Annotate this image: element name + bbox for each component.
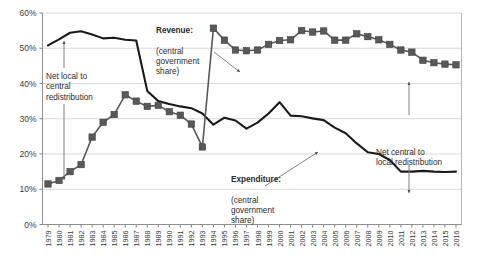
revenue-annotation: Revenue: (central government share) [156, 16, 226, 78]
net-central-to-local-annotation: Net central to local redistribution [376, 148, 472, 169]
svg-text:2014: 2014 [430, 231, 439, 247]
svg-text:1997: 1997 [242, 231, 251, 247]
expenditure-annotation: Expenditure: (central government share) [231, 165, 311, 227]
svg-text:1986: 1986 [121, 231, 130, 247]
svg-text:2003: 2003 [309, 231, 318, 247]
svg-text:1982: 1982 [77, 231, 86, 247]
revenue-annotation-title: Revenue: [156, 26, 226, 36]
svg-text:2001: 2001 [287, 231, 296, 247]
svg-text:10%: 10% [19, 184, 36, 194]
x-axis-labels: 1979198019811982198319841985198619871988… [44, 231, 461, 247]
chart-container: 0%10%20%30%40%50%60% 1979198019811982198… [0, 0, 482, 278]
svg-text:50%: 50% [19, 43, 36, 53]
revenue-annotation-sub: (central government share) [156, 47, 199, 77]
svg-text:1979: 1979 [44, 231, 53, 247]
svg-text:1992: 1992 [187, 231, 196, 247]
svg-text:1985: 1985 [110, 231, 119, 247]
svg-text:2000: 2000 [276, 231, 285, 247]
svg-text:2005: 2005 [331, 231, 340, 247]
svg-text:60%: 60% [19, 8, 36, 18]
svg-text:40%: 40% [19, 79, 36, 89]
svg-text:2004: 2004 [320, 231, 329, 247]
svg-text:1981: 1981 [66, 231, 75, 247]
svg-text:1994: 1994 [209, 231, 218, 247]
svg-text:2007: 2007 [353, 231, 362, 247]
svg-text:1980: 1980 [55, 231, 64, 247]
svg-text:1989: 1989 [154, 231, 163, 247]
svg-text:1996: 1996 [231, 231, 240, 247]
svg-text:1998: 1998 [254, 231, 263, 247]
svg-text:2016: 2016 [452, 231, 461, 247]
svg-text:0%: 0% [24, 220, 37, 230]
svg-text:1983: 1983 [88, 231, 97, 247]
svg-text:1991: 1991 [176, 231, 185, 247]
svg-text:1993: 1993 [198, 231, 207, 247]
expenditure-annotation-sub: (central government share) [231, 196, 274, 226]
svg-text:1984: 1984 [99, 231, 108, 247]
svg-text:2010: 2010 [386, 231, 395, 247]
svg-text:1987: 1987 [132, 231, 141, 247]
svg-text:1999: 1999 [265, 231, 274, 247]
svg-text:1995: 1995 [220, 231, 229, 247]
svg-text:2009: 2009 [375, 231, 384, 247]
net-local-to-central-annotation: Net local to central redistribution [46, 72, 110, 103]
svg-text:1990: 1990 [165, 231, 174, 247]
svg-text:2012: 2012 [408, 231, 417, 247]
svg-text:2011: 2011 [397, 231, 406, 246]
svg-text:2006: 2006 [342, 231, 351, 247]
y-axis-labels: 0%10%20%30%40%50%60% [19, 8, 36, 230]
svg-text:20%: 20% [19, 149, 36, 159]
svg-text:1988: 1988 [143, 231, 152, 247]
line-chart: 0%10%20%30%40%50%60% 1979198019811982198… [0, 0, 482, 278]
svg-text:2015: 2015 [441, 231, 450, 247]
svg-text:2013: 2013 [419, 231, 428, 247]
svg-text:30%: 30% [19, 114, 36, 124]
expenditure-annotation-title: Expenditure: [231, 175, 311, 185]
svg-text:2002: 2002 [298, 231, 307, 247]
svg-text:2008: 2008 [364, 231, 373, 247]
